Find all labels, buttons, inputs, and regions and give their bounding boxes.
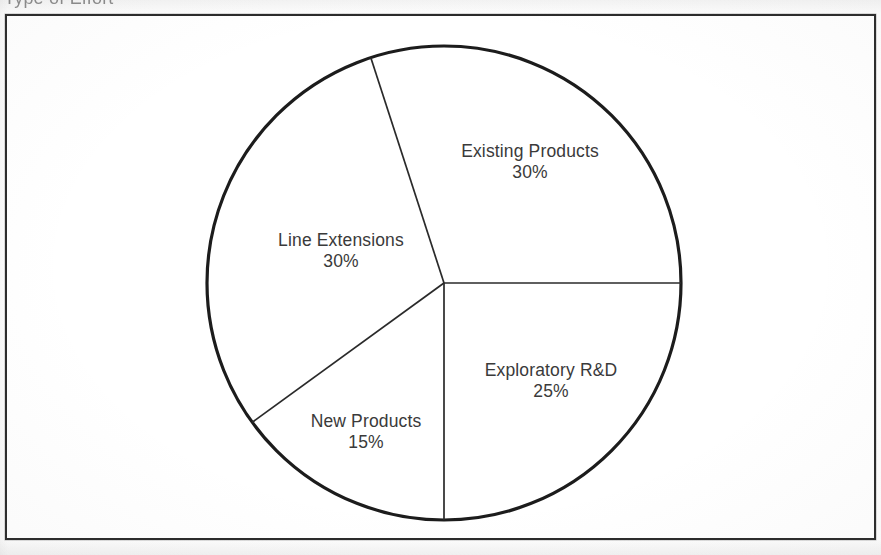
pie-slice-value-existing-products: 30% xyxy=(461,162,599,183)
pie-slice-label-existing-products: Existing Products30% xyxy=(461,141,599,183)
pie-slice-label-exploratory-r-d: Exploratory R&D25% xyxy=(485,360,618,402)
pie-slice-label-new-products: New Products15% xyxy=(311,411,422,453)
pie-slice-name-exploratory-r-d: Exploratory R&D xyxy=(485,360,618,381)
chart-caption: Type of Effort xyxy=(4,0,114,9)
pie-slice-name-existing-products: Existing Products xyxy=(461,141,599,162)
clipped-caption-strip: Type of Effort xyxy=(0,0,881,13)
pie-slice-name-line-extensions: Line Extensions xyxy=(278,230,404,251)
scanned-page: Type of Effort Exploratory R&D25%New Pro… xyxy=(0,0,881,555)
chart-frame xyxy=(5,14,876,540)
pie-slice-value-line-extensions: 30% xyxy=(278,251,404,272)
pie-slice-label-line-extensions: Line Extensions30% xyxy=(278,230,404,272)
pie-slice-name-new-products: New Products xyxy=(311,411,422,432)
pie-slice-value-exploratory-r-d: 25% xyxy=(485,381,618,402)
pie-slice-value-new-products: 15% xyxy=(311,432,422,453)
